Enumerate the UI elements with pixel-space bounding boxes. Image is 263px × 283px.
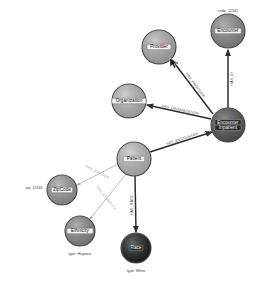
edge-label: HAS_RACE bbox=[130, 194, 134, 215]
graph-node[interactable]: Patient bbox=[117, 142, 151, 176]
graph-node[interactable]: EncounterInpatient bbox=[211, 108, 245, 142]
graph-node[interactable]: Ethnicitytype: Hispanic bbox=[65, 216, 95, 256]
cursor-layer bbox=[170, 58, 177, 68]
edge-label: HAS_ZIPCODE bbox=[84, 164, 110, 180]
edge-line bbox=[135, 176, 136, 232]
node-label: Encounter bbox=[217, 120, 239, 125]
edge-label: HAS_ID bbox=[230, 72, 234, 86]
graph-node[interactable]: Organization bbox=[112, 84, 146, 118]
node-property-label: type: White bbox=[127, 269, 145, 273]
node-label: Inpatient bbox=[219, 125, 238, 130]
node-label: Ethnicity bbox=[71, 228, 89, 233]
node-label: ZipCode bbox=[53, 187, 71, 192]
node-label: Provider bbox=[150, 44, 168, 49]
node-label: Organization bbox=[116, 98, 143, 103]
graph-edge[interactable]: HAS_ID bbox=[228, 50, 234, 108]
node-label: Race bbox=[131, 245, 142, 250]
graph-canvas[interactable]: HAS_IDHAS_PROVIDERHAS_ORGANIZATIONHAS_EN… bbox=[0, 0, 263, 283]
node-label: Patient bbox=[127, 156, 142, 161]
graph-edge[interactable]: HAS_RACE bbox=[130, 176, 136, 232]
graph-edge[interactable]: HAS_ORGANIZATION bbox=[147, 104, 211, 119]
graph-node[interactable]: Racetype: White bbox=[121, 233, 151, 273]
edge-label: HAS_ENCOUNTER bbox=[165, 132, 198, 146]
graph-node[interactable]: Encountercode: 12345 bbox=[211, 9, 245, 48]
graph-node[interactable]: ZipCodezip: 12345 bbox=[25, 175, 77, 205]
graph-visualization[interactable]: HAS_IDHAS_PROVIDERHAS_ORGANIZATIONHAS_EN… bbox=[0, 0, 263, 283]
graph-edge[interactable]: HAS_ENCOUNTER bbox=[150, 132, 212, 152]
graph-edge[interactable]: HAS_ETHNICITY bbox=[90, 174, 126, 219]
nodes-layer: Encountercode: 12345ProviderOrganization… bbox=[25, 9, 245, 273]
edge-label: HAS_PROVIDER bbox=[185, 72, 206, 98]
mouse-pointer-icon bbox=[170, 58, 177, 68]
graph-edge[interactable]: HAS_ZIPCODE bbox=[77, 164, 118, 185]
graph-edge[interactable]: HAS_PROVIDER bbox=[172, 60, 213, 114]
node-property-label: code: 12345 bbox=[218, 9, 238, 13]
edge-line bbox=[150, 132, 212, 152]
edges-layer: HAS_IDHAS_PROVIDERHAS_ORGANIZATIONHAS_EN… bbox=[77, 50, 234, 232]
node-property-label: zip: 12345 bbox=[25, 186, 42, 190]
edge-line bbox=[77, 164, 118, 185]
node-property-label: type: Hispanic bbox=[68, 252, 91, 256]
node-label: Encounter bbox=[217, 28, 239, 33]
edge-line bbox=[172, 60, 213, 114]
